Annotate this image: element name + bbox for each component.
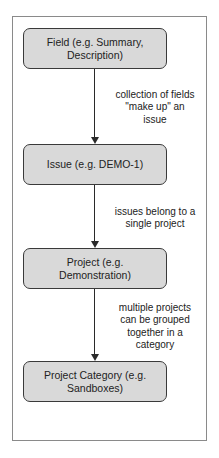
node-field-label: Field (e.g. Summary, Description) xyxy=(47,36,144,61)
node-project-category: Project Category (e.g. Sandboxes) xyxy=(23,361,167,402)
node-project: Project (e.g. Demonstration) xyxy=(23,248,167,289)
edge-field-to-issue xyxy=(94,69,95,138)
node-issue-label: Issue (e.g. DEMO-1) xyxy=(47,158,143,171)
node-project-category-label: Project Category (e.g. Sandboxes) xyxy=(44,369,146,394)
node-field: Field (e.g. Summary, Description) xyxy=(23,28,167,69)
edge-label-project-to-category: multiple projects can be grouped togethe… xyxy=(103,302,207,351)
edge-label-field-to-issue: collection of fields "make up" an issue xyxy=(103,89,207,126)
node-project-label: Project (e.g. Demonstration) xyxy=(59,256,131,281)
arrowhead-down-icon xyxy=(91,354,99,361)
edge-issue-to-project xyxy=(94,185,95,242)
arrowhead-down-icon xyxy=(91,241,99,248)
node-issue: Issue (e.g. DEMO-1) xyxy=(23,144,167,185)
edge-project-to-category xyxy=(94,289,95,355)
arrowhead-down-icon xyxy=(91,137,99,144)
edge-label-issue-to-project: issues belong to a single project xyxy=(103,206,207,231)
